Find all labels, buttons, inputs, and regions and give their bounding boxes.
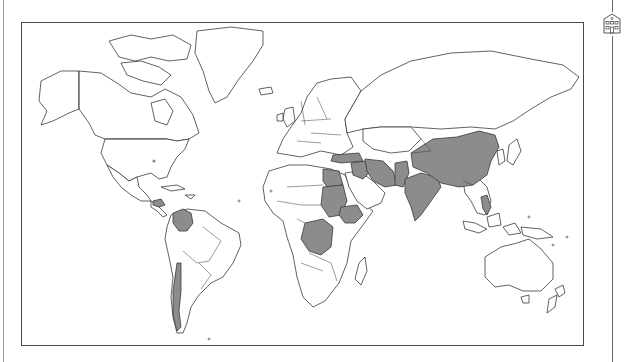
world-map-svg	[22, 23, 584, 346]
greenland	[195, 27, 263, 103]
right-divider-top	[612, 0, 613, 12]
indonesia	[463, 221, 487, 233]
right-divider-bottom	[612, 36, 613, 362]
turkey	[331, 153, 363, 163]
canada	[79, 71, 199, 141]
arctic-islands	[109, 35, 191, 61]
india	[405, 173, 441, 221]
central-asia	[363, 127, 421, 153]
central-america-highlight	[153, 199, 165, 207]
russia	[345, 51, 579, 133]
alaska	[39, 71, 79, 125]
egypt	[323, 169, 343, 187]
australia	[485, 239, 553, 291]
building-icon[interactable]	[601, 12, 623, 34]
left-divider	[3, 0, 4, 362]
world-map[interactable]	[21, 22, 584, 346]
usa-marker-dot	[152, 159, 155, 162]
